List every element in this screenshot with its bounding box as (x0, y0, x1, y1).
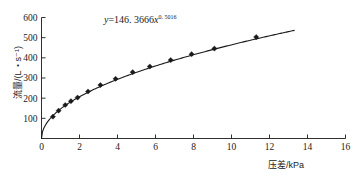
x-tick-label: 8 (191, 142, 196, 152)
y-tick-label: 600 (23, 13, 38, 23)
x-tick-label: 16 (341, 142, 351, 152)
chart-plot-area: 0246810121416 100200300400500600 y=146. … (0, 0, 359, 180)
axes-group (42, 18, 346, 139)
data-markers-group (50, 34, 258, 119)
x-axis-ticks-group: 0246810121416 (39, 135, 350, 152)
y-tick-label: 500 (23, 33, 38, 43)
data-point-marker (212, 46, 217, 51)
y-tick-label: 400 (23, 53, 38, 63)
x-tick-label: 6 (153, 142, 158, 152)
x-tick-label: 10 (227, 142, 237, 152)
equation-text: y=146. 3666x0. 5016 (103, 14, 177, 25)
x-axis-title: 压差/kPa (268, 158, 304, 171)
x-tick-label: 2 (77, 142, 82, 152)
power-fit-curve (42, 30, 295, 138)
chart-figure: 0246810121416 100200300400500600 y=146. … (0, 0, 359, 180)
x-tick-label: 4 (115, 142, 120, 152)
x-tick-label: 14 (303, 142, 313, 152)
equation-annotation: y=146. 3666x0. 5016 (103, 14, 177, 25)
y-tick-label: 200 (23, 94, 38, 104)
y-axis-ticks-group: 100200300400500600 (23, 13, 45, 124)
x-tick-label: 12 (265, 142, 275, 152)
x-tick-label: 0 (39, 142, 44, 152)
fit-curve-group (42, 30, 295, 138)
data-point-marker (50, 114, 55, 119)
y-tick-label: 100 (23, 114, 38, 124)
y-axis-title: 流量/(L・s⁻¹) (11, 25, 24, 121)
y-tick-label: 300 (23, 73, 38, 83)
